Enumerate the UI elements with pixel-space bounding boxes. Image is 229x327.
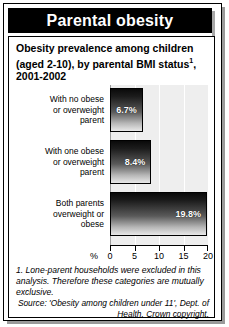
chart-panel: Obesity prevalence among children (aged … xyxy=(8,36,215,318)
chart-row-1: With no obese or overweight parent 6.7% xyxy=(16,87,208,133)
subtitle-line-3: 2001-2002 xyxy=(16,70,66,82)
x-tick-label-20: 20 xyxy=(199,251,217,261)
figure-shadow-right xyxy=(222,7,225,324)
category-label-2-line-1: With one obese xyxy=(45,146,104,157)
chart-row-3: Both parents overweight or obese 19.8% xyxy=(16,191,208,237)
bar-1: 6.7% xyxy=(110,88,143,132)
subtitle-line-1: Obesity prevalence among children xyxy=(16,42,193,54)
bar-chart: With no obese or overweight parent 6.7% … xyxy=(16,85,208,261)
x-tick-label-15: 15 xyxy=(175,251,193,261)
bar-value-2: 8.4% xyxy=(125,157,151,167)
category-label-1: With no obese or overweight parent xyxy=(16,87,104,133)
bar-value-3: 19.8% xyxy=(175,209,206,219)
gridline-20 xyxy=(208,85,209,245)
x-tick-label-10: 10 xyxy=(150,251,168,261)
bar-2: 8.4% xyxy=(110,140,151,184)
bar-value-1: 6.7% xyxy=(116,105,142,115)
category-label-3: Both parents overweight or obese xyxy=(16,191,104,237)
category-label-2-line-2: or overweight xyxy=(53,157,104,168)
subtitle-line-2: (aged 2-10), by parental BMI status xyxy=(16,57,189,69)
bar-3: 19.8% xyxy=(110,192,207,236)
category-label-3-line-1: Both parents xyxy=(56,198,104,209)
x-axis-labels: % 05101520 xyxy=(90,251,208,263)
category-label-3-line-2: overweight or xyxy=(53,209,104,220)
category-label-1-line-3: parent xyxy=(80,115,104,126)
x-tick-label-0: 0 xyxy=(101,251,119,261)
parental-obesity-figure: Parental obesity Obesity prevalence amon… xyxy=(3,3,222,321)
category-label-1-line-1: With no obese xyxy=(50,94,104,105)
category-label-2-line-3: parent xyxy=(80,167,104,178)
category-label-2: With one obese or overweight parent xyxy=(16,139,104,185)
category-label-3-line-3: obese xyxy=(81,219,104,230)
figure-header: Parental obesity xyxy=(8,8,212,33)
figure-shadow-bottom xyxy=(7,321,225,324)
x-axis-unit-label: % xyxy=(90,251,98,261)
page-title: Parental obesity xyxy=(8,8,212,33)
chart-footnote: 1. Lone-parent households were excluded … xyxy=(16,265,209,298)
x-tick-label-5: 5 xyxy=(126,251,144,261)
chart-subtitle: Obesity prevalence among children (aged … xyxy=(16,42,210,82)
chart-row-2: With one obese or overweight parent 8.4% xyxy=(16,139,208,185)
chart-source: Source: 'Obesity among children under 11… xyxy=(16,298,209,319)
subtitle-line-2-comma: , xyxy=(193,57,196,69)
category-label-1-line-2: or overweight xyxy=(53,105,104,116)
header-shadow xyxy=(212,11,215,36)
